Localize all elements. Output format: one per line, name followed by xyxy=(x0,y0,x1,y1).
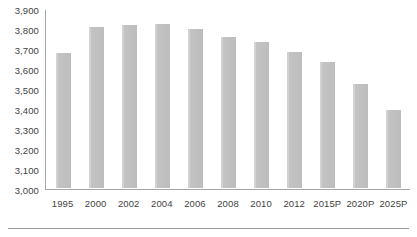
bar-slot xyxy=(47,10,80,188)
x-axis-tick-label: 2000 xyxy=(79,198,112,209)
y-axis-tick-label: 3,800 xyxy=(15,25,39,36)
bar-slot xyxy=(377,10,410,188)
x-axis: 199520002002200420062008201020122015P202… xyxy=(46,192,410,214)
x-axis-tick-label: 2015P xyxy=(311,198,344,209)
plot-area xyxy=(45,10,410,190)
y-axis-tick-label: 3,000 xyxy=(15,185,39,196)
x-axis-tick-label: 2004 xyxy=(145,198,178,209)
y-axis-tick-label: 3,100 xyxy=(15,165,39,176)
bar-slot xyxy=(212,10,245,188)
bar[interactable] xyxy=(320,62,335,188)
bar[interactable] xyxy=(221,37,236,188)
bar[interactable] xyxy=(89,27,104,188)
bar[interactable] xyxy=(155,24,170,188)
bar[interactable] xyxy=(287,52,302,188)
y-axis-tick-label: 3,900 xyxy=(15,5,39,16)
x-axis-tick-label: 2020P xyxy=(344,198,377,209)
bar-slot xyxy=(113,10,146,188)
y-axis-tick-label: 3,400 xyxy=(15,105,39,116)
y-axis: 3,9003,8003,7003,6003,5003,4003,3003,200… xyxy=(0,0,44,200)
bar-slot xyxy=(278,10,311,188)
x-axis-tick-label: 2006 xyxy=(178,198,211,209)
bar[interactable] xyxy=(353,84,368,188)
y-axis-tick-label: 3,600 xyxy=(15,65,39,76)
bar-slot xyxy=(146,10,179,188)
bar[interactable] xyxy=(56,53,71,188)
bar[interactable] xyxy=(254,42,269,188)
bar-series xyxy=(47,10,410,188)
bottom-divider xyxy=(8,228,409,229)
y-axis-tick-label: 3,300 xyxy=(15,125,39,136)
bar-slot xyxy=(245,10,278,188)
bar-slot xyxy=(80,10,113,188)
y-axis-tick-label: 3,500 xyxy=(15,85,39,96)
x-axis-tick-label: 2025P xyxy=(377,198,410,209)
bar[interactable] xyxy=(386,110,401,188)
bar-slot xyxy=(179,10,212,188)
bar[interactable] xyxy=(122,25,137,188)
bar-slot xyxy=(344,10,377,188)
y-axis-tick-label: 3,700 xyxy=(15,45,39,56)
x-axis-tick-label: 2012 xyxy=(278,198,311,209)
y-axis-tick-label: 3,200 xyxy=(15,145,39,156)
x-axis-tick-label: 1995 xyxy=(46,198,79,209)
x-axis-tick-label: 2002 xyxy=(112,198,145,209)
bar-chart-figure: 3,9003,8003,7003,6003,5003,4003,3003,200… xyxy=(0,0,417,237)
bar-slot xyxy=(311,10,344,188)
bar[interactable] xyxy=(188,29,203,188)
x-axis-tick-label: 2008 xyxy=(211,198,244,209)
x-axis-tick-label: 2010 xyxy=(245,198,278,209)
